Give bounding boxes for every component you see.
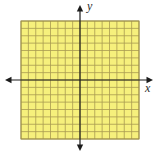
y-axis-up-arrow-icon (77, 5, 83, 12)
x-axis-left-arrow-icon (5, 77, 12, 83)
coordinate-plane-figure: y x (0, 0, 162, 155)
coordinate-grid-svg (0, 0, 162, 155)
x-axis-label: x (145, 82, 150, 94)
y-axis-down-arrow-icon (77, 145, 83, 152)
y-axis-label: y (87, 0, 92, 12)
